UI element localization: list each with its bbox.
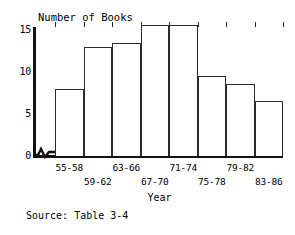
x-axis-tick xyxy=(226,22,227,27)
x-axis-tick xyxy=(84,22,85,27)
x-axis-tick xyxy=(198,22,199,27)
x-axis-category-labels: 55-5859-6263-6667-7071-7475-7879-8283-86 xyxy=(33,158,289,192)
x-axis-category-label: 67-70 xyxy=(133,176,177,187)
x-axis-tick xyxy=(255,22,256,27)
histogram-bar xyxy=(55,89,84,156)
x-axis-tick xyxy=(283,22,284,27)
y-axis-tick-label: 15 xyxy=(5,25,31,35)
x-axis-category-label: 59-62 xyxy=(76,176,120,187)
y-axis-tick-label: 10 xyxy=(5,67,31,77)
histogram-bar xyxy=(255,101,284,156)
y-axis-tick-label: 0 xyxy=(5,151,31,161)
x-axis-tick xyxy=(55,22,56,27)
histogram-bar xyxy=(112,43,141,156)
x-axis-category-label: 75-78 xyxy=(190,176,234,187)
y-axis-tick-label: 5 xyxy=(5,109,31,119)
source-note: Source: Table 3-4 xyxy=(26,210,128,221)
x-axis-tick xyxy=(169,22,170,27)
histogram-bar xyxy=(84,47,113,156)
x-axis-tick xyxy=(141,22,142,27)
x-axis-category-label: 83-86 xyxy=(247,176,291,187)
x-axis-title: Year xyxy=(0,192,295,203)
x-axis-category-label: 71-74 xyxy=(161,162,205,173)
x-axis-category-label: 63-66 xyxy=(104,162,148,173)
histogram-bar xyxy=(226,84,255,156)
plot-area xyxy=(33,22,283,156)
histogram-bar xyxy=(198,76,227,156)
x-axis-category-label: 55-58 xyxy=(47,162,91,173)
histogram-figure: Number of Books 051015 55-5859-6263-6667… xyxy=(0,0,295,235)
histogram-bar xyxy=(141,25,170,156)
x-axis-category-label: 79-82 xyxy=(218,162,262,173)
histogram-bar xyxy=(169,25,198,156)
x-axis-tick xyxy=(112,22,113,27)
